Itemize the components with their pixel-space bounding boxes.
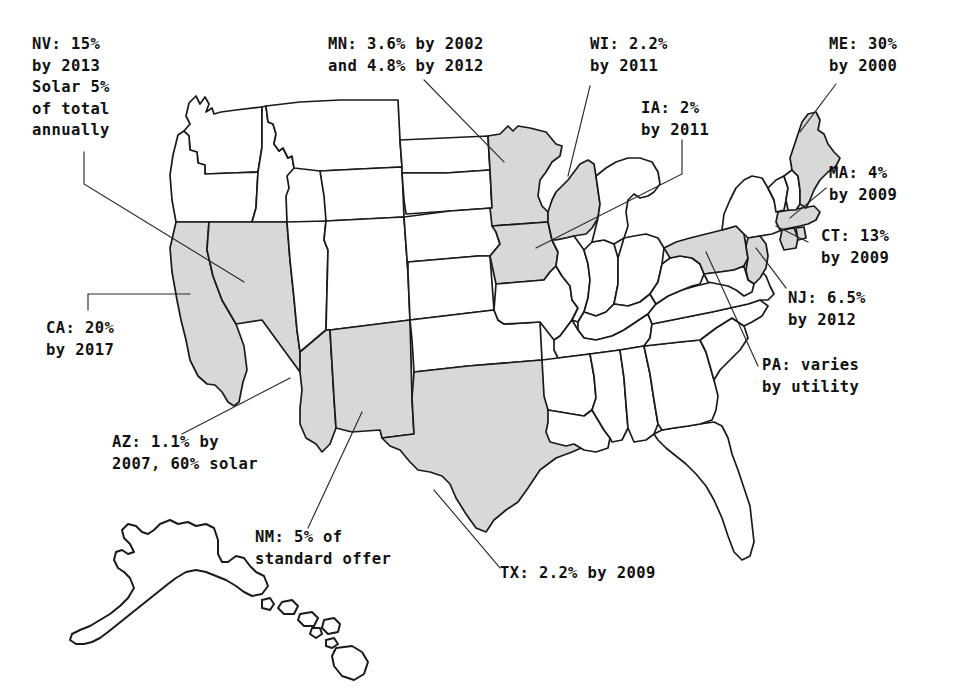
state-CO[interactable] bbox=[324, 217, 410, 330]
callout-nj: NJ: 6.5% by 2012 bbox=[788, 288, 866, 331]
state-HI-4[interactable] bbox=[310, 628, 322, 638]
state-WY[interactable] bbox=[320, 167, 404, 221]
callout-mn: MN: 3.6% by 2002 and 4.8% by 2012 bbox=[328, 34, 484, 77]
callout-ct: CT: 13% by 2009 bbox=[821, 226, 889, 269]
callout-wi: WI: 2.2% by 2011 bbox=[590, 34, 668, 77]
callout-ca: CA: 20% by 2017 bbox=[46, 318, 114, 361]
map-infographic: NV: 15% by 2013 Solar 5% of total annual… bbox=[0, 0, 953, 694]
state-FL[interactable] bbox=[654, 422, 754, 560]
leader-line-ca bbox=[88, 294, 190, 310]
callout-tx: TX: 2.2% by 2009 bbox=[500, 563, 656, 585]
callout-ia: IA: 2% by 2011 bbox=[641, 98, 709, 141]
state-KS[interactable] bbox=[408, 256, 494, 320]
state-HI-5[interactable] bbox=[322, 618, 340, 634]
state-MI[interactable] bbox=[592, 158, 660, 244]
state-HI-2[interactable] bbox=[278, 600, 298, 614]
callout-nv: NV: 15% by 2013 Solar 5% of total annual… bbox=[32, 34, 110, 142]
callout-pa: PA: varies by utility bbox=[762, 355, 859, 398]
us-map-svg bbox=[0, 0, 953, 694]
state-AR[interactable] bbox=[542, 354, 596, 416]
state-ND[interactable] bbox=[400, 136, 490, 173]
callout-az: AZ: 1.1% by 2007, 60% solar bbox=[112, 432, 258, 475]
callout-nm: NM: 5% of standard offer bbox=[255, 527, 391, 570]
callout-ma: MA: 4% by 2009 bbox=[829, 163, 897, 206]
state-HI-6[interactable] bbox=[326, 638, 338, 648]
state-NM[interactable] bbox=[330, 320, 414, 438]
state-HI[interactable] bbox=[262, 598, 274, 610]
state-HI-3[interactable] bbox=[298, 612, 318, 626]
state-CT[interactable] bbox=[780, 228, 798, 250]
state-AK[interactable] bbox=[70, 520, 268, 644]
callout-me: ME: 30% by 2000 bbox=[829, 34, 897, 77]
state-SD[interactable] bbox=[402, 170, 492, 214]
state-WI[interactable] bbox=[548, 160, 600, 240]
state-HI-7[interactable] bbox=[332, 646, 368, 680]
